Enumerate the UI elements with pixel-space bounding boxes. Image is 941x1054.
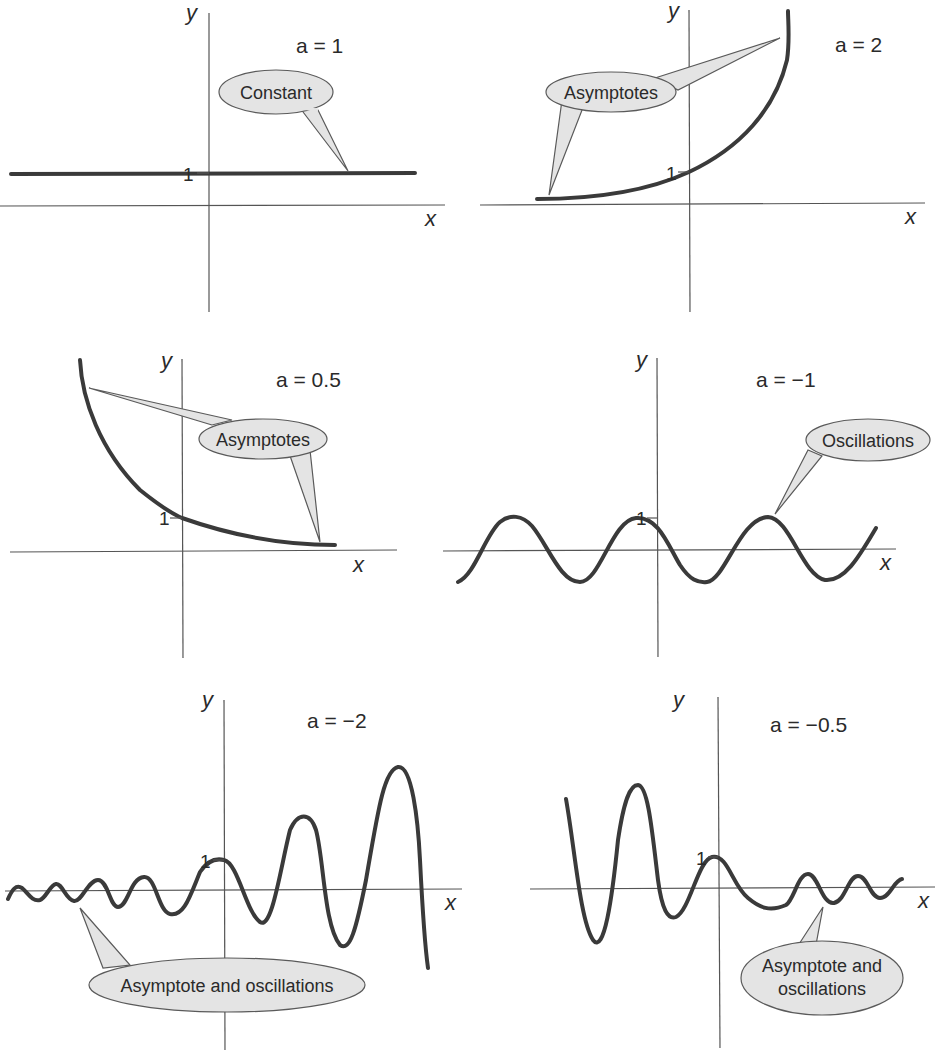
y-axis-label: y: [159, 348, 174, 373]
callout-text: Constant: [240, 83, 312, 103]
x-axis-label: x: [352, 552, 365, 577]
param-label: a = 1: [296, 34, 343, 57]
tick-one-label: 1: [183, 164, 194, 185]
y-axis-label: y: [200, 687, 215, 712]
y-axis: [689, 10, 690, 312]
tick-one-label: 1: [159, 508, 170, 529]
x-axis: [10, 550, 397, 552]
param-label: a = −2: [307, 709, 367, 732]
callout-tail-upper: [655, 38, 780, 90]
callout-text-line-2: oscillations: [778, 979, 866, 999]
callout-bubble: [741, 941, 903, 1015]
figure-canvas: 1 x y a = 1 Constant 1 x y a = 2 Asympto…: [0, 0, 941, 1054]
callout-text: Asymptotes: [564, 83, 658, 103]
x-axis-label: x: [917, 888, 930, 913]
tick-one-label: 1: [200, 851, 211, 872]
callout-tail: [80, 908, 130, 968]
callout-text: Asymptotes: [216, 430, 310, 450]
callout-tail: [775, 450, 822, 514]
panel-a-neg-1: 1 x y a = −1 Oscillations: [443, 347, 930, 657]
callout-text: Asymptote and oscillations: [120, 976, 333, 996]
oscillation-curve: [566, 785, 902, 942]
x-axis-label: x: [879, 550, 892, 575]
panel-a-0-5: 1 x y a = 0.5 Asymptotes: [10, 348, 397, 658]
y-axis: [718, 697, 720, 1048]
param-label: a = 2: [835, 33, 882, 56]
tick-one-label: 1: [636, 508, 647, 529]
x-axis: [480, 203, 925, 205]
y-axis-label: y: [184, 0, 199, 25]
x-axis: [5, 889, 462, 891]
y-axis-label: y: [634, 347, 649, 372]
tail-join: [300, 108, 318, 110]
constant-curve: [11, 173, 415, 174]
x-axis-label: x: [444, 890, 457, 915]
callout-tail-upper: [89, 388, 232, 425]
param-label: a = 0.5: [276, 368, 341, 391]
callout-tail: [300, 108, 348, 171]
x-axis-label: x: [424, 206, 437, 231]
param-label: a = −1: [756, 368, 816, 391]
oscillation-curve: [8, 767, 428, 968]
y-axis-label: y: [671, 687, 686, 712]
panel-a-neg-0-5: 1 x y a = −0.5 Asymptote and oscillation…: [530, 687, 935, 1048]
panel-a-1: 1 x y a = 1 Constant: [0, 0, 445, 312]
callout-text: Oscillations: [822, 431, 914, 451]
tick-one-label: 1: [666, 163, 677, 184]
callout-tail-lower: [549, 100, 584, 195]
y-axis: [657, 358, 658, 657]
panel-a-2: 1 x y a = 2 Asymptotes: [480, 0, 925, 312]
x-axis: [530, 887, 935, 889]
x-axis: [0, 205, 445, 206]
param-label: a = −0.5: [770, 713, 847, 736]
callout-tail-lower: [288, 450, 320, 542]
panel-a-neg-2: 1 x y a = −2 Asymptote and oscillations: [5, 687, 462, 1050]
tick-one-label: 1: [696, 848, 707, 869]
callout-text-line-1: Asymptote and: [762, 956, 882, 976]
y-axis: [182, 359, 183, 658]
y-axis-label: y: [666, 0, 681, 23]
x-axis-label: x: [904, 204, 917, 229]
